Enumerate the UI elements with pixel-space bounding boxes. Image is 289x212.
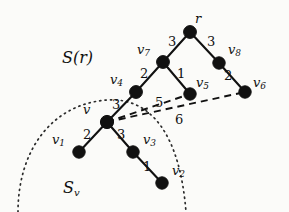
node-label-v1: v1 (52, 133, 65, 146)
node-label-v-text: v (83, 102, 90, 117)
region-label-sv-symbol: S (63, 178, 74, 197)
region-label-sr: S(r) (62, 50, 93, 66)
node-label-v5-sub: 5 (203, 81, 209, 91)
node-v5 (184, 88, 196, 100)
weight-label-v-v3: 3 (117, 128, 125, 141)
weight-label-v-v4: 3 (112, 98, 120, 111)
node-v6 (239, 86, 251, 98)
weight-label-v4-v7: 2 (140, 67, 148, 80)
weight-label-v8-v6: 2 (224, 69, 232, 82)
node-v (100, 115, 113, 128)
node-label-v7: v7 (137, 43, 150, 56)
node-label-r-text: r (195, 11, 201, 26)
node-label-v7-sub: 7 (144, 48, 150, 58)
node-label-v6-sub: 6 (260, 81, 266, 91)
node-label-v2: v2 (172, 164, 185, 177)
node-label-v5: v5 (196, 76, 209, 89)
weight-label-v7-v5: 1 (177, 67, 185, 80)
weight-label-r-v8: 3 (207, 35, 215, 48)
weight-label-v-v6: 6 (175, 113, 183, 126)
node-label-v1-sub: 1 (59, 138, 65, 148)
weight-label-v3-v2: 1 (143, 160, 151, 173)
figure-canvas: S(r) Sv r v7 v8 v4 v5 v6 v v1 v3 v2 3 3 … (0, 0, 289, 212)
node-r (184, 26, 197, 39)
node-v3 (127, 146, 139, 158)
node-label-v: v (83, 103, 90, 116)
node-label-v3: v3 (143, 133, 156, 146)
weight-label-v-v5: 5 (155, 96, 163, 109)
node-label-v4-sub: 4 (117, 78, 123, 88)
node-label-v8-sub: 8 (235, 48, 241, 58)
node-label-v4: v4 (110, 73, 123, 86)
node-label-r: r (195, 12, 201, 25)
region-label-sv-subscript: v (74, 187, 80, 198)
weight-label-v7-r: 3 (168, 35, 176, 48)
node-label-v6: v6 (253, 76, 266, 89)
node-label-v2-sub: 2 (179, 169, 185, 179)
node-v2 (156, 177, 168, 189)
weight-label-v1-v: 2 (83, 128, 91, 141)
subtree-boundary-curve (18, 100, 186, 212)
node-v7 (157, 56, 170, 69)
node-label-v3-sub: 3 (150, 138, 156, 148)
node-v4 (130, 86, 143, 99)
tree-graph-svg (0, 0, 289, 212)
node-v1 (73, 146, 85, 158)
region-label-sv: Sv (63, 180, 80, 196)
node-label-v8: v8 (228, 43, 241, 56)
